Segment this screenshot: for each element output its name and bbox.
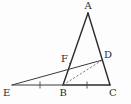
triangle-abc: [63, 13, 110, 85]
geometry-figure: A B C D E F: [0, 0, 131, 104]
vertex-label-B: B: [60, 88, 67, 98]
vertex-dot-F: [69, 63, 70, 64]
vertex-label-E: E: [3, 88, 10, 98]
transversal-ED: [12, 60, 103, 85]
vertex-dots: [69, 59, 103, 64]
vertex-label-C: C: [109, 88, 117, 98]
line-B-to-D-dashed: [63, 60, 103, 85]
vertex-label-D: D: [104, 50, 112, 60]
side-AB: [63, 13, 88, 85]
line-E-to-D: [12, 60, 103, 85]
dashed-segment-BD: [63, 60, 103, 85]
vertex-label-F: F: [61, 54, 68, 64]
vertex-label-A: A: [85, 1, 92, 11]
vertex-dot-D: [102, 59, 103, 60]
